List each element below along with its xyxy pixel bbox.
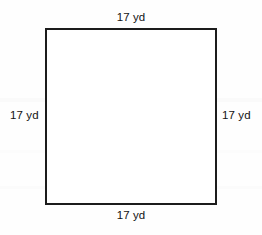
geometry-figure: 17 yd 17 yd 17 yd 17 yd (0, 0, 262, 235)
side-length-label-right: 17 yd (222, 109, 251, 122)
side-length-label-left: 17 yd (10, 109, 39, 122)
side-length-label-bottom: 17 yd (0, 209, 262, 222)
square-outline (45, 28, 217, 205)
side-length-label-top: 17 yd (0, 11, 262, 24)
